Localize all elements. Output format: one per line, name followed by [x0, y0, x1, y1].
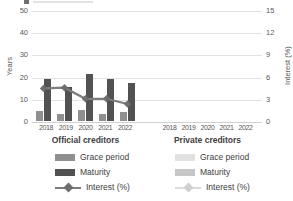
legend-swatch-interest	[55, 183, 81, 192]
left-axis-tick: 10	[0, 96, 28, 104]
year-label: 2018	[36, 124, 56, 131]
left-axis-tick: 20	[0, 74, 28, 82]
right-axis-tick: 6	[266, 74, 284, 82]
year-slot	[78, 74, 93, 121]
chart-panel: Years Interest (%) 010203040500369121520…	[0, 0, 293, 201]
year-slot	[120, 83, 135, 121]
legend-item: Grace period	[175, 152, 250, 162]
legend-swatch-maturity	[175, 169, 195, 176]
legend-line-marker	[64, 182, 74, 192]
right-axis-tick: 9	[266, 51, 284, 59]
legend-column: Grace periodMaturityInterest (%)	[175, 152, 250, 192]
right-axis-tick: 15	[266, 7, 284, 15]
maturity-bar	[86, 74, 93, 121]
legend-item: Interest (%)	[55, 182, 130, 192]
maturity-bar	[107, 79, 114, 121]
right-axis-tick: 0	[266, 118, 284, 126]
group-label: Official creditors	[36, 135, 135, 145]
x-axis-labels: 20182019202020212022	[36, 124, 135, 131]
legend-item: Maturity	[175, 167, 250, 177]
legend-label: Maturity	[200, 167, 230, 177]
year-label: 2019	[179, 124, 198, 131]
gridline	[32, 33, 262, 34]
year-label: 2020	[76, 124, 96, 131]
grace-period-bar	[99, 114, 106, 121]
legend-swatch-maturity	[55, 169, 75, 176]
gridline	[32, 122, 262, 123]
legend-swatch-grace-period	[55, 154, 75, 161]
grace-period-bar	[120, 112, 127, 121]
legend-label: Interest (%)	[206, 182, 250, 192]
maturity-bar	[128, 83, 135, 121]
legend-item: Maturity	[55, 167, 130, 177]
maturity-bar	[65, 87, 72, 121]
year-label: 2022	[115, 124, 135, 131]
year-label: 2022	[236, 124, 255, 131]
year-slot	[36, 79, 51, 121]
legend-line-marker	[184, 182, 194, 192]
legend-swatch-grace-period	[175, 154, 195, 161]
gridline	[32, 11, 262, 12]
x-axis-labels: 20182019202020212022	[160, 124, 255, 131]
year-label: 2019	[56, 124, 76, 131]
year-label: 2021	[95, 124, 115, 131]
clipped-title-fragment	[24, 0, 29, 4]
legend-item: Interest (%)	[175, 182, 250, 192]
grace-period-bar	[57, 114, 64, 121]
year-label: 2018	[160, 124, 179, 131]
year-slot	[57, 87, 72, 121]
year-slot	[99, 79, 114, 121]
grace-period-bar	[78, 110, 85, 121]
legend-label: Interest (%)	[86, 182, 130, 192]
left-axis-tick: 50	[0, 7, 28, 15]
legend-swatch-interest	[175, 183, 201, 192]
legend-label: Grace period	[200, 152, 249, 162]
grace-period-bar	[36, 111, 43, 121]
clipped-title-fragment	[33, 1, 93, 3]
group-label: Private creditors	[160, 135, 255, 145]
right-axis-tick: 3	[266, 96, 284, 104]
left-axis-tick: 40	[0, 29, 28, 37]
left-axis-tick: 30	[0, 51, 28, 59]
legend-label: Maturity	[80, 167, 110, 177]
legend-item: Grace period	[55, 152, 130, 162]
legend-column: Grace periodMaturityInterest (%)	[55, 152, 130, 192]
bar-group	[36, 74, 135, 121]
year-label: 2021	[217, 124, 236, 131]
plot-area	[32, 11, 262, 122]
right-axis-tick: 12	[266, 29, 284, 37]
left-axis-tick: 0	[0, 118, 28, 126]
maturity-bar	[44, 79, 51, 121]
legend-label: Grace period	[80, 152, 129, 162]
year-label: 2020	[198, 124, 217, 131]
gridline	[32, 55, 262, 56]
